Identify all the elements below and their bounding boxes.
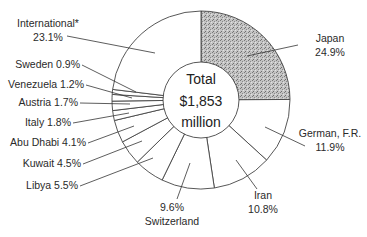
leader-line xyxy=(80,158,153,186)
slice-label: German, F.R. xyxy=(299,127,361,139)
center-total-value: $1,853 xyxy=(180,93,223,109)
slice-label: Abu Dhabi 4.1% xyxy=(10,136,86,148)
slice-label: Italy 1.8% xyxy=(25,116,71,128)
slice-label: International* xyxy=(17,17,79,29)
slice-label: Switzerland xyxy=(145,215,199,227)
slice-label: Libya 5.5% xyxy=(26,179,78,191)
slice-label: Iran xyxy=(254,189,272,201)
slice-label: Austria 1.7% xyxy=(18,96,78,108)
slice-label: Venezuela 1.2% xyxy=(8,78,84,90)
center-total-unit: million xyxy=(181,114,221,130)
donut-chart: Total $1,853 million Japan24.9%German, F… xyxy=(0,0,367,237)
center-total-label: Total xyxy=(186,71,216,87)
slice-label: Japan xyxy=(316,32,345,44)
slice-label: Kuwait 4.5% xyxy=(23,157,81,169)
slice-label: 11.9% xyxy=(316,141,345,153)
slice-label: 10.8% xyxy=(248,203,278,215)
slice-label: 9.6% xyxy=(160,201,184,213)
slice-label: 23.1% xyxy=(33,31,63,43)
slice-label: 24.9% xyxy=(315,46,345,58)
slice-label: Sweden 0.9% xyxy=(15,58,80,70)
